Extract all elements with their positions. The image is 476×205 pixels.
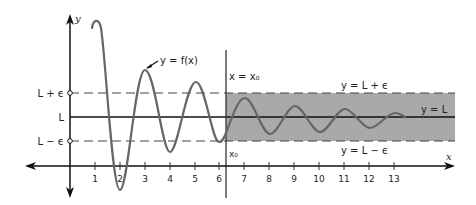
lower-bound-label: y = L − ϵ bbox=[341, 145, 388, 156]
lower-bound-point-icon bbox=[68, 139, 73, 144]
x-tick-label: 5 bbox=[192, 174, 198, 184]
y-axis: y L + ϵ L L − ϵ bbox=[38, 13, 81, 198]
x-tick-label: 12 bbox=[363, 174, 374, 184]
curve-label-arrow-icon bbox=[146, 64, 152, 69]
y-axis-label: y bbox=[74, 13, 81, 24]
x-tick-label: 8 bbox=[266, 174, 272, 184]
x-tick-label: 10 bbox=[313, 174, 325, 184]
x-tick-label: 3 bbox=[142, 174, 148, 184]
y-label-upper: L + ϵ bbox=[38, 88, 64, 99]
epsilon-limit-diagram: 1 2 3 4 5 6 7 8 9 10 11 12 13 x y L + ϵ … bbox=[0, 0, 476, 205]
x-tick-label: 11 bbox=[338, 174, 349, 184]
upper-bound-label: y = L + ϵ bbox=[341, 80, 388, 91]
y-label-L: L bbox=[58, 112, 64, 123]
x-tick-label: 13 bbox=[388, 174, 399, 184]
limit-label: y = L bbox=[421, 104, 448, 115]
curve-label: y = f(x) bbox=[160, 55, 198, 66]
y-label-lower: L − ϵ bbox=[38, 136, 64, 147]
x-tick-label: 6 bbox=[216, 174, 222, 184]
x-tick-label: 9 bbox=[291, 174, 297, 184]
x0-line-label: x = x₀ bbox=[229, 71, 260, 82]
x-tick-label: 2 bbox=[117, 174, 123, 184]
x-axis-label: x bbox=[446, 151, 452, 162]
upper-bound-point-icon bbox=[68, 91, 73, 96]
x0-marker-label: x₀ bbox=[229, 149, 238, 159]
x-axis: 1 2 3 4 5 6 7 8 9 10 11 12 13 x bbox=[25, 151, 455, 184]
x-tick-label: 1 bbox=[92, 174, 98, 184]
x-tick-label: 7 bbox=[241, 174, 247, 184]
x-tick-label: 4 bbox=[167, 174, 173, 184]
